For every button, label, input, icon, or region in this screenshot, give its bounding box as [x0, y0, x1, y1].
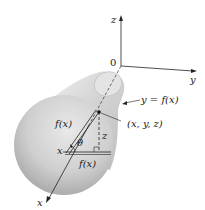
x-position-label: x	[57, 145, 63, 156]
radius-slant-label: f(x)	[54, 118, 72, 129]
y-axis-label: y	[189, 74, 196, 85]
curve-label: y = f(x)	[140, 94, 179, 105]
point-xyz	[97, 110, 101, 114]
origin-label: 0	[110, 57, 116, 68]
x-axis-arrow	[46, 196, 51, 203]
z-axis-arrow	[119, 15, 123, 21]
curve-leader-arrow	[122, 101, 127, 105]
x-axis-label: x	[37, 197, 43, 208]
radius-horizontal-label: f(x)	[78, 158, 96, 169]
y-axis-arrow	[191, 69, 197, 73]
point-label: (x, y, z)	[127, 118, 163, 129]
solid-of-revolution-diagram: z y x 0 y = f(x) (x, y, z) f(x) f(x) z θ…	[0, 0, 205, 210]
curve-leader	[125, 100, 140, 103]
angle-label: θ	[77, 137, 83, 148]
y-axis	[121, 66, 193, 71]
height-label: z	[101, 130, 108, 141]
z-axis-label: z	[110, 14, 117, 25]
